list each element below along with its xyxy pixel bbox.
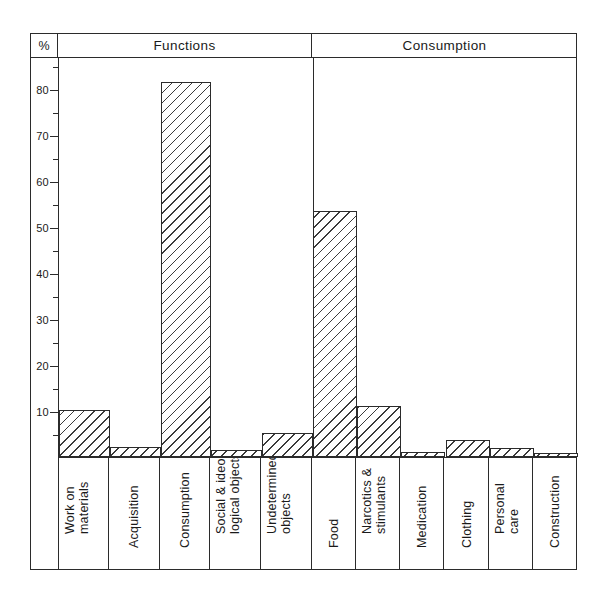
- bar: [357, 406, 401, 457]
- category-label-cell: Social & ideo-logical objects: [210, 458, 261, 569]
- category-label: Narcotics &stimulants: [360, 458, 388, 534]
- y-tick-label: 50: [36, 222, 49, 234]
- category-label-line: stimulants: [374, 458, 388, 534]
- y-tick-major: [50, 90, 58, 91]
- category-label-band: Work onmaterialsAcquisitionConsumptionSo…: [58, 458, 577, 569]
- category-label-line: Acquisition: [127, 458, 141, 548]
- category-label: Medication: [415, 458, 429, 548]
- group-header-row: % Functions Consumption: [31, 34, 576, 58]
- category-label-line: objects: [279, 458, 293, 534]
- bar: [59, 410, 110, 457]
- y-tick-major: [50, 274, 58, 275]
- bar: [446, 440, 490, 457]
- category-label: Personalcare: [493, 458, 521, 534]
- y-tick-label: 40: [36, 268, 49, 280]
- y-tick-major: [50, 228, 58, 229]
- category-label-cell: Consumption: [160, 458, 211, 569]
- category-label-line: Work on: [63, 458, 77, 534]
- category-label-line: Social & ideo-: [214, 458, 228, 534]
- category-label: Work onmaterials: [63, 458, 91, 534]
- category-label-cell: Undeterminedobjects: [261, 458, 312, 569]
- y-tick-major: [50, 320, 58, 321]
- category-label-cell: Personalcare: [489, 458, 533, 569]
- percent-unit-label: %: [38, 39, 49, 53]
- category-label-cell: Construction: [533, 458, 577, 569]
- category-label: Clothing: [460, 458, 474, 548]
- y-tick-label: 10: [36, 406, 49, 418]
- y-tick-label: 20: [36, 360, 49, 372]
- category-label-cell: Clothing: [445, 458, 489, 569]
- group-header-functions: Functions: [58, 34, 312, 58]
- y-tick-major: [50, 136, 58, 137]
- category-label-line: Consumption: [178, 458, 192, 548]
- percent-unit-cell: %: [31, 34, 58, 58]
- category-label-line: Medication: [415, 458, 429, 548]
- group-header-consumption: Consumption: [312, 34, 577, 58]
- group-header-functions-label: Functions: [153, 38, 215, 53]
- category-label: Construction: [548, 458, 562, 548]
- category-label-line: Narcotics &: [360, 458, 374, 534]
- bar: [262, 433, 313, 457]
- bar: [401, 452, 445, 457]
- category-label: Social & ideo-logical objects: [214, 458, 242, 534]
- bar: [110, 447, 161, 457]
- category-label: Food: [327, 458, 341, 548]
- category-label-line: care: [507, 458, 521, 534]
- category-label-cell: Narcotics &stimulants: [356, 458, 400, 569]
- bar: [490, 448, 534, 457]
- category-label-line: Clothing: [460, 458, 474, 548]
- bar: [534, 453, 578, 457]
- category-label-cell: Work onmaterials: [58, 458, 109, 569]
- y-tick-major: [50, 366, 58, 367]
- category-label-cell: Medication: [400, 458, 444, 569]
- bar: [211, 450, 262, 457]
- category-label: Undeterminedobjects: [265, 458, 293, 534]
- y-tick-major: [50, 182, 58, 183]
- y-axis: 8070605040302010: [31, 58, 58, 458]
- category-label-line: Construction: [548, 458, 562, 548]
- y-tick-label: 70: [36, 130, 49, 142]
- y-tick-label: 30: [36, 314, 49, 326]
- category-label-cell: Food: [312, 458, 356, 569]
- category-label-line: logical objects: [228, 458, 242, 534]
- category-label-cell: Acquisition: [109, 458, 160, 569]
- y-tick-label: 60: [36, 176, 49, 188]
- group-header-consumption-label: Consumption: [403, 38, 487, 53]
- bar: [313, 211, 357, 457]
- category-label-line: Food: [327, 458, 341, 548]
- y-tick-label: 80: [36, 84, 49, 96]
- category-label: Acquisition: [127, 458, 141, 548]
- bar: [161, 82, 212, 457]
- chart-frame: % Functions Consumption 8070605040302010…: [30, 33, 577, 570]
- category-label: Consumption: [178, 458, 192, 548]
- category-label-line: materials: [77, 458, 91, 534]
- plot-area: [58, 58, 577, 458]
- category-label-line: Undetermined: [265, 458, 279, 534]
- category-label-line: Personal: [493, 458, 507, 534]
- y-tick-major: [50, 412, 58, 413]
